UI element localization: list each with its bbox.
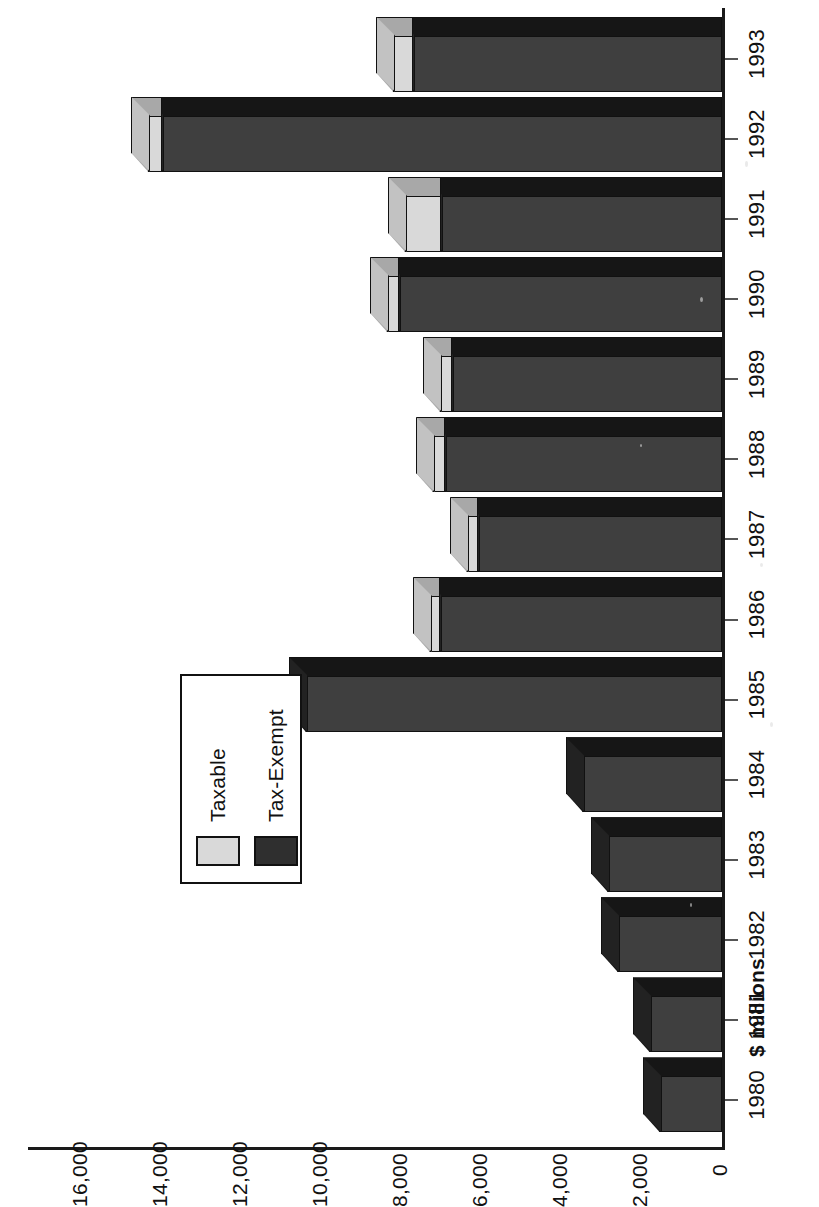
chart-legend: TaxableTax-Exempt <box>180 674 302 884</box>
category-axis-label-1991: 1991 <box>744 187 770 241</box>
bar-1984-tax-exempt-front-face <box>583 756 722 812</box>
category-axis-label-1981: 1981 <box>744 988 770 1042</box>
bar-1987-taxable-front-face <box>467 516 478 572</box>
bar-1993-taxable-front-face <box>393 36 413 92</box>
bar-group-1983[interactable] <box>0 0 819 1207</box>
bar-1987-tax-exempt-front-face <box>478 516 722 572</box>
legend-label: Tax-Exempt <box>264 709 288 822</box>
bar-1991-tax-exempt-front-face <box>441 196 722 252</box>
category-axis-label-1987: 1987 <box>744 507 770 561</box>
category-axis-tick <box>725 1099 738 1101</box>
bar-group-1991[interactable] <box>0 0 819 1207</box>
bar-1989-taxable-top-face <box>423 337 442 412</box>
bar-1986-taxable-front-face <box>430 596 440 652</box>
category-axis-tick <box>725 58 738 60</box>
bar-1986-tax-exempt-front-face <box>440 596 722 652</box>
bar-1989-tax-exempt-top-face <box>435 337 454 412</box>
bar-1985-tax-exempt-front-face <box>306 676 722 732</box>
rotated-chart-canvas: $ millions 02,0004,0006,0008,00010,00012… <box>0 0 819 1207</box>
value-axis-tick-label: 10,000 <box>308 1164 332 1207</box>
category-axis-label-1990: 1990 <box>744 267 770 321</box>
category-axis-label-1985: 1985 <box>744 668 770 722</box>
bar-1992-taxable-front-face <box>148 116 162 172</box>
bar-group-1985[interactable] <box>0 0 819 1207</box>
bar-1988-tax-exempt-top-face <box>428 417 447 492</box>
bar-group-1981[interactable] <box>0 0 819 1207</box>
value-axis-tick-label: 4,000 <box>548 1164 572 1207</box>
category-axis-tick <box>725 458 738 460</box>
bar-1985-tax-exempt-side-face <box>289 657 722 732</box>
bar-1992-taxable-top-face <box>131 97 150 172</box>
bar-1987-taxable-top-face <box>450 497 469 572</box>
value-axis-tick-label: 12,000 <box>228 1164 252 1207</box>
bar-1990-tax-exempt-top-face <box>382 257 401 332</box>
legend-entry-tax-exempt[interactable]: Tax-Exempt <box>254 692 298 866</box>
bar-group-1988[interactable] <box>0 0 819 1207</box>
category-axis-line <box>722 8 725 1150</box>
category-axis-label-1983: 1983 <box>744 828 770 882</box>
bar-group-1980[interactable] <box>0 0 819 1207</box>
category-axis-tick <box>725 619 738 621</box>
bar-1991-tax-exempt-top-face <box>424 177 443 252</box>
bar-1987-taxable-side-face <box>450 497 478 572</box>
bar-1991-tax-exempt-side-face <box>424 177 722 252</box>
value-axis-tick-label: 0 <box>708 1164 732 1207</box>
bar-1993-tax-exempt-side-face <box>396 17 722 92</box>
bar-1993-tax-exempt-front-face <box>413 36 722 92</box>
bar-1986-tax-exempt-side-face <box>423 577 722 652</box>
bar-group-1987[interactable] <box>0 0 819 1207</box>
category-axis-tick <box>725 939 738 941</box>
category-axis-label-1986: 1986 <box>744 588 770 642</box>
legend-entry-taxable[interactable]: Taxable <box>196 692 240 866</box>
chart-plot-area: $ millions 02,0004,0006,0008,00010,00012… <box>0 0 819 1207</box>
bar-1991-taxable-front-face <box>405 196 441 252</box>
category-axis-label-1982: 1982 <box>744 908 770 962</box>
category-axis-tick <box>725 138 738 140</box>
bar-group-1990[interactable] <box>0 0 819 1207</box>
value-axis-tick-label: 2,000 <box>628 1164 652 1207</box>
bar-1992-taxable-side-face <box>131 97 162 172</box>
bar-group-1993[interactable] <box>0 0 819 1207</box>
bar-group-1984[interactable] <box>0 0 819 1207</box>
scan-speck <box>690 903 692 907</box>
bar-group-1982[interactable] <box>0 0 819 1207</box>
bar-1988-taxable-side-face <box>416 417 445 492</box>
bar-1990-tax-exempt-side-face <box>382 257 722 332</box>
bar-1990-taxable-top-face <box>370 257 389 332</box>
bar-1993-taxable-top-face <box>376 17 395 92</box>
bar-1987-tax-exempt-side-face <box>461 497 722 572</box>
category-axis-tick <box>725 779 738 781</box>
bar-1989-taxable-side-face <box>423 337 452 412</box>
category-axis-label-1989: 1989 <box>744 347 770 401</box>
bar-1990-tax-exempt-front-face <box>399 276 722 332</box>
scan-speck <box>760 563 763 567</box>
bar-1993-taxable-side-face <box>376 17 413 92</box>
bar-1984-tax-exempt-top-face <box>566 737 585 812</box>
light-gray-swatch <box>196 836 240 866</box>
bar-1981-tax-exempt-front-face <box>650 996 722 1052</box>
scan-speck <box>640 444 642 447</box>
category-axis-tick <box>725 538 738 540</box>
bar-1988-taxable-top-face <box>416 417 435 492</box>
value-axis-tick-label: 16,000 <box>68 1164 92 1207</box>
bar-1983-tax-exempt-side-face <box>591 817 722 892</box>
bar-1988-tax-exempt-front-face <box>445 436 722 492</box>
bar-1986-tax-exempt-top-face <box>423 577 442 652</box>
bar-1992-tax-exempt-front-face <box>162 116 722 172</box>
value-axis-tick-label: 8,000 <box>388 1164 412 1207</box>
bar-1989-tax-exempt-front-face <box>452 356 722 412</box>
bar-1988-taxable-front-face <box>433 436 445 492</box>
bar-1981-tax-exempt-top-face <box>633 977 652 1052</box>
legend-label: Taxable <box>206 748 230 822</box>
bar-1982-tax-exempt-front-face <box>618 916 722 972</box>
bar-1981-tax-exempt-side-face <box>633 977 722 1052</box>
bar-group-1992[interactable] <box>0 0 819 1207</box>
bar-1990-taxable-front-face <box>387 276 399 332</box>
scan-speck <box>745 161 748 167</box>
bar-group-1989[interactable] <box>0 0 819 1207</box>
bar-group-1986[interactable] <box>0 0 819 1207</box>
bar-1986-taxable-side-face <box>413 577 440 652</box>
scan-speck <box>700 297 703 302</box>
bar-1984-tax-exempt-side-face <box>566 737 722 812</box>
category-axis-tick <box>725 1019 738 1021</box>
